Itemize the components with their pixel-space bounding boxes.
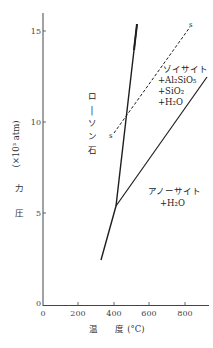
zoisite-label-line-4: +H₂O — [158, 97, 183, 107]
x-axis-title-right: 度 (°C) — [115, 324, 144, 334]
lawsonite-label-char-1: ロ — [88, 91, 97, 101]
y-axis-title-bottom: 圧 — [15, 208, 24, 218]
y-axis-title-unit: (×10³ atm) — [11, 120, 21, 167]
x-tick-label-0: 0 — [40, 309, 45, 318]
lawsonite-label-char-2: | — [91, 105, 94, 116]
y-tick-label-15: 15 — [31, 27, 41, 36]
y-tick-label-0: 0 — [36, 299, 41, 308]
lawsonite-boundary-top-thick — [134, 24, 137, 50]
x-tick-label-800: 800 — [177, 309, 192, 318]
anorthite-label-line-2: +H₂O — [160, 198, 185, 208]
lawsonite-label-char-4: ン — [88, 131, 97, 141]
x-tick-label-400: 400 — [106, 309, 121, 318]
lawsonite-boundary-line — [101, 24, 137, 260]
x-tick-label-600: 600 — [141, 309, 156, 318]
s-label-upper: s — [189, 21, 193, 29]
zoisite-label-line-2: +Al₂SiO₅ — [158, 75, 197, 85]
y-tick-label-5: 5 — [36, 209, 41, 218]
zoisite-label-line-3: +SiO₂ — [158, 86, 184, 96]
anorthite-label-line-1: アノーサイト — [148, 186, 201, 196]
lawsonite-label-char-5: 石 — [88, 145, 97, 155]
phase-diagram: 15 10 5 0 0 200 400 600 800 温 度 (°C) (×1… — [0, 0, 213, 348]
zoisite-label-line-1: ゾイサイト — [163, 64, 208, 74]
x-axis-title-left: 温 — [89, 324, 98, 334]
s-label-lower: s — [109, 132, 113, 140]
y-tick-label-10: 10 — [31, 118, 41, 127]
x-tick-label-200: 200 — [70, 309, 85, 318]
lawsonite-label-char-3: ソ — [88, 118, 97, 128]
y-axis-title-mid: 力 — [15, 183, 24, 193]
